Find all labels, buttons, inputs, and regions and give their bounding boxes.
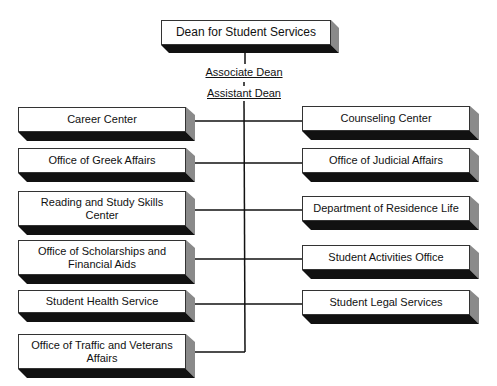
dean-box: Dean for Student Services (161, 20, 331, 45)
left-unit-box: Student Health Service (18, 290, 186, 313)
left-unit-label: Office of Greek Affairs (18, 148, 186, 173)
left-unit-label: Career Center (18, 107, 186, 132)
assistant-dean-label: Assistant Dean (206, 87, 282, 99)
left-unit-label: Student Health Service (18, 290, 186, 313)
left-unit-box: Office of Traffic and Veterans Affairs (18, 334, 186, 369)
left-unit-box: Office of Scholarships and Financial Aid… (18, 240, 186, 275)
left-unit-box: Career Center (18, 107, 186, 132)
right-unit-label: Student Legal Services (302, 290, 470, 315)
left-unit-label: Office of Traffic and Veterans Affairs (18, 334, 186, 369)
right-unit-label: Department of Residence Life (302, 196, 470, 221)
main-trunk-line (244, 101, 245, 352)
right-unit-box: Counseling Center (302, 106, 470, 131)
left-unit-label: Office of Scholarships and Financial Aid… (18, 240, 186, 275)
right-unit-label: Counseling Center (302, 106, 470, 131)
right-unit-box: Student Legal Services (302, 290, 470, 315)
dean-label: Dean for Student Services (161, 20, 331, 45)
left-unit-box: Reading and Study Skills Center (18, 191, 186, 226)
right-unit-box: Student Activities Office (302, 245, 470, 270)
right-unit-label: Student Activities Office (302, 245, 470, 270)
right-unit-label: Office of Judicial Affairs (302, 148, 470, 173)
right-unit-box: Office of Judicial Affairs (302, 148, 470, 173)
left-unit-box: Office of Greek Affairs (18, 148, 186, 173)
associate-dean-label: Associate Dean (204, 66, 283, 78)
left-unit-label: Reading and Study Skills Center (18, 191, 186, 226)
right-unit-box: Department of Residence Life (302, 196, 470, 221)
